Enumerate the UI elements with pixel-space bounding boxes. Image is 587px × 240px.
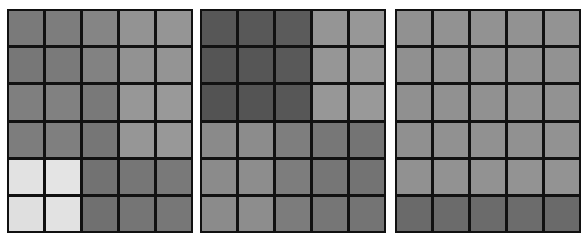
grid-cell [434,85,468,119]
grid-cell [239,197,273,231]
grid-cell [46,85,80,119]
grid-cell [545,11,579,45]
grid-panel-2 [200,9,386,233]
grid-cell [350,85,384,119]
grid-cell [313,160,347,194]
grid-cell [157,48,191,82]
grid-cell [545,85,579,119]
grid-cell [508,123,542,157]
grid-cell [434,11,468,45]
grid-cell [471,85,505,119]
grid-cell [434,48,468,82]
grid-cell [83,85,117,119]
grid-cell [508,85,542,119]
grid-cell [120,48,154,82]
grid-cell [120,123,154,157]
grid-cell [9,48,43,82]
grid-cell [157,160,191,194]
grid-cell [46,11,80,45]
grid-cell [202,123,236,157]
grid-cell [239,160,273,194]
grid-cell [9,11,43,45]
grid-cell [471,197,505,231]
grid-cell [202,11,236,45]
grid-cell [83,197,117,231]
grid-cell [276,11,310,45]
grid-panel-3 [395,9,581,233]
grid-cell [120,197,154,231]
grid-cell [157,197,191,231]
grid-cell [9,123,43,157]
grid-cell [434,160,468,194]
grid-cell [313,11,347,45]
grid-cell [350,197,384,231]
grid-cell [157,123,191,157]
grid-cell [313,123,347,157]
grid-cell [276,123,310,157]
grid-cell [83,11,117,45]
grid-cell [9,160,43,194]
grid-cell [202,48,236,82]
grid-cell [157,11,191,45]
grid-cell [120,85,154,119]
grid-cell [313,197,347,231]
grid-cell [239,11,273,45]
grid-cell [202,85,236,119]
grid-cell [350,123,384,157]
grid-cell [239,123,273,157]
grid-cell [157,85,191,119]
grid-cell [46,160,80,194]
grid-cell [46,197,80,231]
grid-cell [434,197,468,231]
grid-cell [397,48,431,82]
grid-cell [202,197,236,231]
grid-cell [397,85,431,119]
grid-cell [350,48,384,82]
grid-cell [434,123,468,157]
grid-cell [545,123,579,157]
grid-cell [276,160,310,194]
grid-cell [313,48,347,82]
grid-cell [545,160,579,194]
grid-cell [471,160,505,194]
grid-cell [9,85,43,119]
grid-cell [239,48,273,82]
grid-cell [397,197,431,231]
grid-cell [471,48,505,82]
grid-cell [508,197,542,231]
grid-cell [120,160,154,194]
grid-cell [350,11,384,45]
grid-cell [397,11,431,45]
grid-cell [83,123,117,157]
grid-cell [46,48,80,82]
grid-cell [120,11,154,45]
grid-cell [508,11,542,45]
grid-cell [471,123,505,157]
grid-cell [545,48,579,82]
grid-cell [9,197,43,231]
grid-panel-1 [7,9,193,233]
grid-cell [508,48,542,82]
grid-cell [397,123,431,157]
grid-cell [239,85,273,119]
grid-cell [276,48,310,82]
grid-cell [471,11,505,45]
grid-cell [313,85,347,119]
grid-cell [397,160,431,194]
grid-cell [276,197,310,231]
grid-cell [350,160,384,194]
grid-cell [83,48,117,82]
grid-cell [508,160,542,194]
grid-cell [276,85,310,119]
grid-cell [83,160,117,194]
grid-cell [545,197,579,231]
grid-cell [46,123,80,157]
grid-cell [202,160,236,194]
